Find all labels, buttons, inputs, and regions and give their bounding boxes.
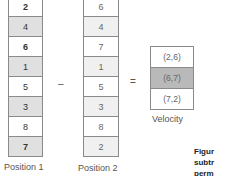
caption-line: Figur: [194, 146, 214, 157]
caption-line: subtr: [194, 157, 214, 168]
p2-cell: 5: [84, 77, 118, 97]
p2-cell: 6: [84, 0, 118, 17]
position-2-column: 6 4 7 1 5 3 8 2: [83, 0, 119, 157]
velocity-cell: (2,6): [151, 47, 193, 68]
position-2-label: Position 2: [78, 163, 118, 173]
p2-cell: 7: [84, 37, 118, 57]
caption-line: perm: [194, 168, 214, 176]
velocity-cell: (7,2): [151, 89, 193, 110]
figure-caption: Figur subtr perm: [194, 146, 214, 176]
p1-cell: 1: [9, 57, 42, 77]
position-1-label: Position 1: [4, 162, 44, 172]
p2-cell: 4: [84, 17, 118, 37]
minus-operator: –: [58, 78, 64, 89]
p1-cell: 6: [9, 37, 42, 57]
p1-cell: 3: [9, 97, 42, 117]
velocity-cell: (6,7): [151, 68, 193, 89]
p2-cell: 3: [84, 97, 118, 117]
p1-cell: 8: [9, 117, 42, 137]
p2-cell: 8: [84, 117, 118, 137]
p1-cell: 5: [9, 77, 42, 97]
p2-cell: 1: [84, 57, 118, 77]
velocity-label: Velocity: [152, 114, 183, 124]
velocity-column: (2,6) (6,7) (7,2): [150, 46, 194, 110]
p1-cell: 4: [9, 17, 42, 37]
position-1-column: 2 4 6 1 5 3 8 7: [8, 0, 43, 157]
p2-cell: 2: [84, 137, 118, 157]
p1-cell: 7: [9, 137, 42, 157]
equals-operator: =: [130, 76, 136, 87]
p1-cell: 2: [9, 0, 42, 17]
